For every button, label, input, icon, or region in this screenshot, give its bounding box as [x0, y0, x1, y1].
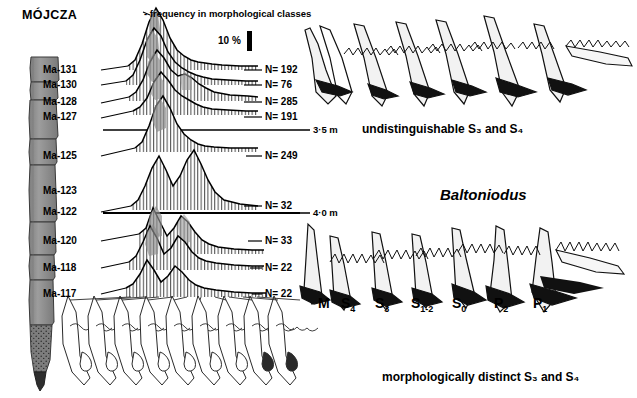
element-label-s4: S4 [341, 295, 355, 314]
sample-count: N= 285 [265, 96, 298, 107]
sample-label: Ma-123 [43, 185, 77, 196]
morphotype-outline-row [62, 296, 318, 385]
sample-count: N= 33 [265, 235, 292, 246]
sample-label: Ma-122 [43, 206, 77, 217]
sample-count: N= 191 [265, 111, 298, 122]
mojcza-conodont-figure [0, 0, 637, 398]
sample-count: N= 22 [265, 262, 292, 273]
sample-label: Ma-117 [43, 288, 76, 299]
distribution-ma-123 [131, 150, 258, 210]
sample-label: Ma-131 [43, 64, 77, 75]
caption-undistinguishable: undistinguishable S₃ and S₄ [362, 122, 523, 136]
sample-label: Ma-127 [43, 111, 77, 122]
sample-count: N= 76 [265, 79, 292, 90]
scale-bar-10-percent [247, 31, 252, 51]
n-value-leaders [244, 70, 262, 294]
sample-count: N= 192 [265, 64, 298, 75]
element-label-s3: S3 [375, 295, 389, 314]
frequency-note: - frequency in morphological classes [144, 8, 311, 19]
depth-marker: 3·5 m [313, 124, 338, 135]
element-label-s12: S1-2 [411, 295, 433, 314]
depth-marker: 4·0 m [313, 207, 338, 218]
element-label-p2: P2 [494, 295, 508, 314]
sample-label: Ma-125 [43, 150, 77, 161]
sample-label: Ma-120 [43, 235, 77, 246]
conodont-apparatus-top [305, 16, 632, 106]
caption-distinct: morphologically distinct S₃ and S₄ [382, 370, 579, 384]
scale-label: 10 % [218, 35, 241, 46]
element-label-m: M [318, 295, 330, 311]
sample-label: Ma-128 [43, 96, 77, 107]
sample-count: N= 249 [265, 150, 298, 161]
depth-leaders [300, 130, 310, 213]
sample-label: Ma-130 [43, 79, 77, 90]
element-label-s0: S0 [452, 295, 466, 314]
sample-count: N= 22 [265, 288, 292, 299]
page-title: MÓJCZA [22, 8, 77, 22]
element-label-p1: P1 [533, 295, 547, 314]
sample-count: N= 32 [265, 200, 292, 211]
stratigraphic-column [29, 57, 59, 391]
genus-name: Baltoniodus [440, 186, 527, 203]
sample-label: Ma-118 [43, 262, 76, 273]
